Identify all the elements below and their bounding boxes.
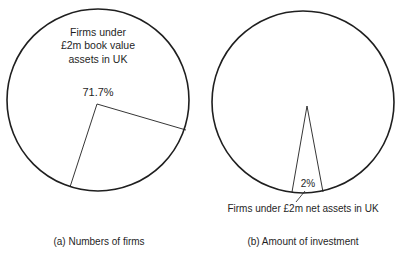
pie-b-value-label: 2% xyxy=(301,178,315,191)
pie-a-title-line-1: Firms under xyxy=(33,26,163,39)
pie-a-wedge-line-right xyxy=(97,104,186,130)
pie-a-caption: (a) Numbers of firms xyxy=(53,236,144,249)
pie-a-value-label: 71.7% xyxy=(82,85,113,99)
pie-a-title: Firms under £2m book value assets in UK xyxy=(33,26,163,66)
pie-a-wedge-line-left xyxy=(70,104,97,187)
pie-charts-figure: Firms under £2m book value assets in UK … xyxy=(0,0,400,258)
pie-a-title-line-3: assets in UK xyxy=(33,53,163,66)
pie-b-caption: (b) Amount of investment xyxy=(247,236,358,249)
pie-b-leader-line xyxy=(296,191,305,202)
pie-b-slice-label: Firms under £2m net assets in UK xyxy=(227,203,378,216)
pie-b-circle xyxy=(212,11,394,193)
pie-a-title-line-2: £2m book value xyxy=(33,39,163,52)
